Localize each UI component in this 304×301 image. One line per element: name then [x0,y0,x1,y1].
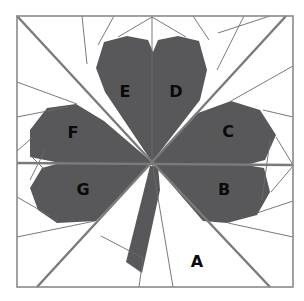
shamrock-pattern-diagram: A B C D E F G [0,0,304,301]
label-f: F [68,123,79,142]
label-g: G [76,180,89,199]
label-c: C [222,122,234,141]
label-b: B [218,180,230,199]
label-a: A [191,252,204,271]
label-d: D [169,82,182,101]
label-e: E [120,82,131,101]
